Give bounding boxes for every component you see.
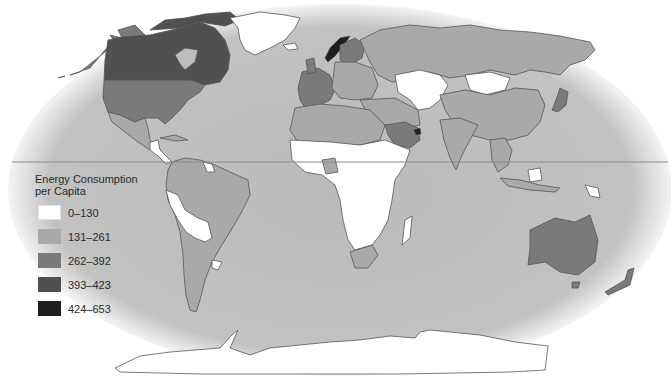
legend-title-line1: Energy Consumption — [35, 173, 185, 185]
legend-label: 262–392 — [68, 255, 111, 267]
legend-item: 0–130 — [35, 204, 185, 221]
legend-label: 393–423 — [68, 279, 111, 291]
legend-label: 0–130 — [68, 207, 99, 219]
legend-swatch — [38, 277, 61, 292]
legend: Energy Consumption per Capita 0–130 131–… — [35, 173, 185, 317]
legend-item: 262–392 — [35, 252, 185, 269]
region-uk — [306, 58, 316, 74]
legend-title-line2: per Capita — [35, 185, 185, 197]
legend-item: 393–423 — [35, 276, 185, 293]
region-borneo — [528, 168, 542, 182]
legend-label: 424–653 — [68, 303, 111, 315]
legend-swatch — [38, 253, 61, 268]
legend-item: 131–261 — [35, 228, 185, 245]
legend-swatch — [38, 205, 61, 220]
legend-swatch — [38, 301, 61, 316]
legend-item: 424–653 — [35, 300, 185, 317]
legend-label: 131–261 — [68, 231, 111, 243]
region-eastern-europe — [332, 62, 378, 100]
legend-swatch — [38, 229, 61, 244]
